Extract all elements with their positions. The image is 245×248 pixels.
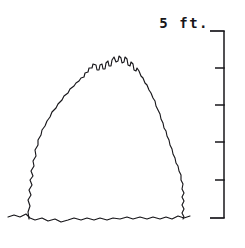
ground-line-path (8, 214, 190, 222)
scale-label: 5 ft. (159, 16, 209, 30)
figure-container: 5 ft. (0, 0, 245, 248)
shrub-profile-drawing (0, 0, 245, 248)
shrub-outline-path (28, 56, 184, 219)
scale-bar (210, 31, 225, 218)
